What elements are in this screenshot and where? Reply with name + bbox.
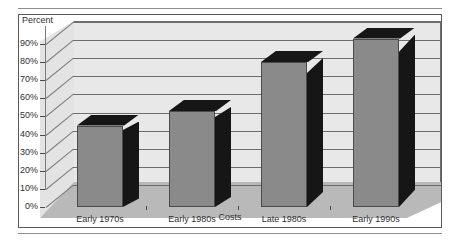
figure-container: Percent 90%80%70%60%50%40%30%20%10%0% Ea…: [0, 0, 460, 241]
y-axis-line: [45, 26, 46, 190]
y-tick-label-60: 60%: [20, 92, 38, 102]
bar-late-1980s: [261, 51, 323, 207]
bar-side-face: [215, 107, 231, 207]
bar-early-1970s: [77, 115, 139, 208]
y-tick-label-20: 20%: [20, 165, 38, 175]
y-tick-mark-60: [40, 98, 45, 99]
chart-3d-scene: [18, 14, 442, 228]
y-tick-mark-30: [40, 153, 45, 154]
bar-top-face: [261, 51, 323, 62]
bar-front-face: [353, 39, 399, 207]
x-axis-title: Costs: [0, 212, 460, 222]
x-tick-mark-2: [330, 206, 331, 210]
y-tick-mark-10: [40, 189, 45, 190]
bar-early-1980s: [169, 100, 231, 207]
bar-top-face: [77, 115, 139, 126]
gridline-90: [73, 22, 441, 23]
y-tick-label-40: 40%: [20, 129, 38, 139]
bar-front-face: [261, 62, 307, 207]
bar-early-1990s: [353, 28, 415, 207]
x-tick-mark-1: [238, 206, 239, 210]
y-tick-mark-50: [40, 116, 45, 117]
y-tick-label-80: 80%: [20, 56, 38, 66]
y-tick-label-30: 30%: [20, 147, 38, 157]
y-tick-mark-70: [40, 80, 45, 81]
bar-top-face: [353, 28, 415, 39]
y-tick-label-0: 0%: [25, 201, 38, 211]
bar-side-face: [399, 35, 415, 207]
y-tick-mark-40: [40, 135, 45, 136]
bar-front-face: [77, 126, 123, 208]
bottom-divider-rule: [18, 233, 442, 234]
bar-side-face: [123, 122, 139, 208]
bar-top-face: [169, 100, 231, 111]
y-tick-label-10: 10%: [20, 183, 38, 193]
y-tick-mark-20: [40, 171, 45, 172]
bar-side-face: [307, 58, 323, 207]
y-tick-label-90: 90%: [20, 38, 38, 48]
bar-front-face: [169, 111, 215, 207]
y-tick-label-70: 70%: [20, 74, 38, 84]
y-tick-mark-90: [40, 44, 45, 45]
y-tick-label-50: 50%: [20, 110, 38, 120]
top-divider-rule: [18, 8, 442, 9]
y-axis-tick-labels: 90%80%70%60%50%40%30%20%10%0%: [0, 0, 38, 214]
x-tick-mark-0: [146, 206, 147, 210]
y-tick-mark-0: [40, 207, 45, 208]
y-tick-mark-80: [40, 62, 45, 63]
